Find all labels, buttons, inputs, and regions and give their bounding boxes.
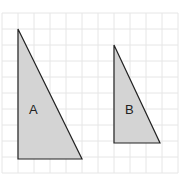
triangle-a-label: A: [29, 102, 38, 117]
triangle-grid-diagram: A B: [0, 0, 183, 183]
triangle-b-label: B: [125, 102, 134, 117]
triangle-b: [114, 45, 160, 143]
